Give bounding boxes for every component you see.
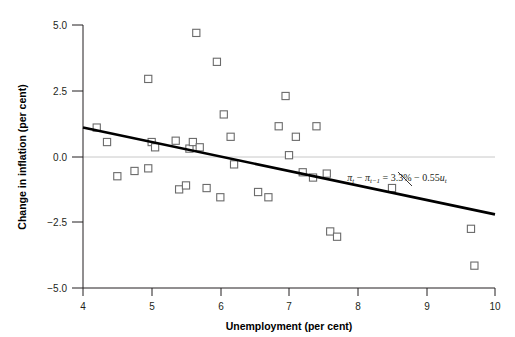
x-tick-label: 10 bbox=[489, 301, 501, 312]
y-tick-label: −5.0 bbox=[47, 283, 67, 294]
scatter-point bbox=[285, 152, 292, 159]
x-tick-label: 7 bbox=[286, 301, 292, 312]
scatter-point bbox=[182, 182, 189, 189]
scatter-point bbox=[203, 184, 210, 191]
scatter-point bbox=[176, 186, 183, 193]
scatter-point bbox=[189, 138, 196, 145]
regression-equation-annotation: πt − πt−1 = 3.3% − 0.55ut bbox=[347, 172, 447, 185]
scatter-point bbox=[323, 170, 330, 177]
scatter-point bbox=[255, 188, 262, 195]
scatter-point bbox=[471, 262, 478, 269]
y-tick-label: −2.5 bbox=[47, 217, 67, 228]
inflation-unemployment-scatter-figure: 5.0 2.5 0.0 −2.5 −5.0 4 5 6 7 8 9 10 bbox=[0, 0, 515, 337]
x-axis-tick-labels: 4 5 6 7 8 9 10 bbox=[80, 301, 501, 312]
scatter-point bbox=[275, 123, 282, 130]
scatter-point bbox=[145, 75, 152, 82]
scatter-point bbox=[282, 92, 289, 99]
x-tick-label: 6 bbox=[218, 301, 224, 312]
scatter-points-group bbox=[93, 29, 478, 269]
scatter-point bbox=[467, 225, 474, 232]
y-tick-label: 5.0 bbox=[53, 20, 67, 31]
scatter-point bbox=[193, 29, 200, 36]
scatter-point bbox=[333, 233, 340, 240]
scatter-point bbox=[227, 133, 234, 140]
scatter-point bbox=[213, 58, 220, 65]
y-axis-title: Change in inflation (per cent) bbox=[16, 84, 28, 229]
scatter-point bbox=[103, 138, 110, 145]
scatter-point bbox=[327, 228, 334, 235]
scatter-point bbox=[217, 194, 224, 201]
scatter-point bbox=[313, 123, 320, 130]
intercept-value: 3.3% bbox=[391, 172, 412, 183]
scatter-point bbox=[292, 133, 299, 140]
y-axis-tick-labels: 5.0 2.5 0.0 −2.5 −5.0 bbox=[47, 20, 67, 294]
y-axis-ticks bbox=[72, 25, 83, 288]
x-tick-label: 9 bbox=[424, 301, 430, 312]
scatter-point bbox=[230, 161, 237, 168]
x-tick-label: 8 bbox=[355, 301, 361, 312]
y-tick-label: 0.0 bbox=[53, 152, 67, 163]
scatter-point bbox=[114, 173, 121, 180]
y-tick-label: 2.5 bbox=[53, 86, 67, 97]
scatter-point bbox=[152, 144, 159, 151]
scatter-point bbox=[196, 144, 203, 151]
scatter-point bbox=[145, 165, 152, 172]
chart-canvas: 5.0 2.5 0.0 −2.5 −5.0 4 5 6 7 8 9 10 bbox=[0, 0, 515, 337]
pi-subscript-t-minus-1: t−1 bbox=[370, 177, 380, 185]
scatter-point bbox=[265, 194, 272, 201]
x-tick-label: 4 bbox=[80, 301, 86, 312]
u-subscript-t: t bbox=[445, 177, 448, 185]
x-axis-title: Unemployment (per cent) bbox=[226, 320, 353, 332]
scatter-point bbox=[388, 184, 395, 191]
scatter-point bbox=[220, 111, 227, 118]
scatter-point bbox=[172, 137, 179, 144]
scatter-point bbox=[131, 167, 138, 174]
slope-value: 0.55 bbox=[422, 172, 440, 183]
x-axis-ticks bbox=[83, 288, 495, 296]
x-tick-label: 5 bbox=[149, 301, 155, 312]
